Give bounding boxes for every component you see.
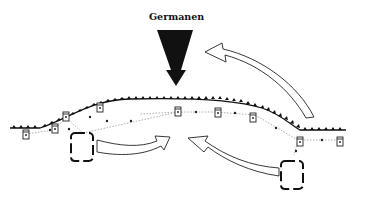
watchtower-icon (215, 108, 221, 117)
germanen-label: Germanen (149, 11, 204, 22)
watchtower-icon (175, 107, 181, 116)
fort-group-left (71, 133, 93, 161)
watchtower-icon (97, 103, 103, 112)
frontier-diagram (0, 0, 368, 203)
watchtower-icon (52, 124, 58, 133)
counter-arrow-left-icon (97, 136, 170, 154)
watchtower-icon (250, 113, 256, 122)
counter-arrow-right-icon (188, 136, 279, 176)
watchtower-icon (63, 112, 69, 121)
invasion-arrow-icon (157, 30, 193, 86)
diagram-canvas: Germanen (0, 0, 368, 203)
watchtower-icon (297, 137, 303, 146)
watchtower-icon (23, 130, 29, 139)
fort-group-right (281, 161, 303, 189)
watchtower-icon (337, 137, 343, 146)
